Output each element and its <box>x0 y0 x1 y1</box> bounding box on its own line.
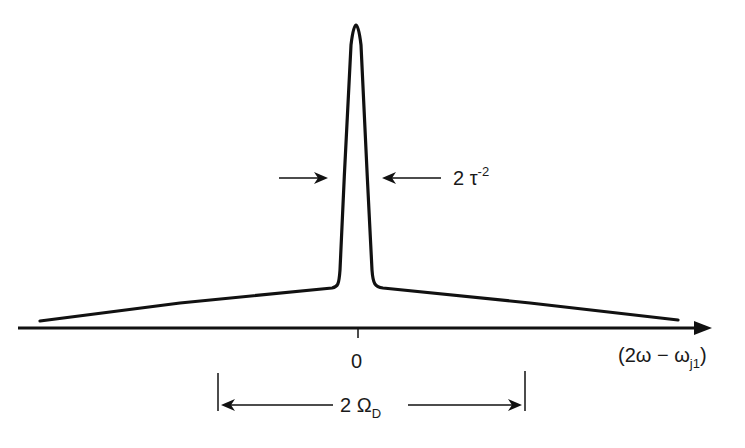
line-shape-diagram <box>0 0 745 448</box>
x-axis-label: (2ω − ωj1) <box>618 345 707 365</box>
spectral-curve <box>40 25 678 321</box>
origin-label: 0 <box>351 351 362 371</box>
x-axis-label-sub: j1 <box>690 356 700 371</box>
narrow-width-label: 2 τ-2 <box>453 168 489 188</box>
x-axis-arrowhead <box>694 321 712 335</box>
broad-width-label: 2 ΩD <box>340 395 381 415</box>
narrow-width-label-text: 2 τ <box>453 167 478 189</box>
x-axis-label-close: ) <box>700 344 707 366</box>
narrow-width-indicator <box>279 172 441 184</box>
broad-width-label-text: 2 Ω <box>340 394 372 416</box>
origin-label-text: 0 <box>351 350 362 372</box>
x-axis-label-text: (2ω − ω <box>618 344 690 366</box>
narrow-width-label-sup: -2 <box>478 164 490 179</box>
broad-width-label-sub: D <box>372 406 381 421</box>
